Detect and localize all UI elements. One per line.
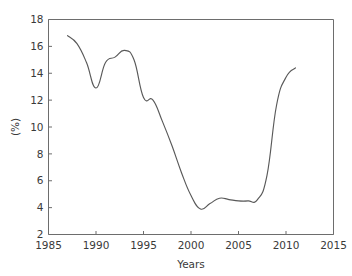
y-tick-label: 10 xyxy=(30,121,43,133)
x-axis-ticks xyxy=(96,231,334,235)
x-tick-label: 2015 xyxy=(320,239,347,251)
line-chart: 24681012141618 1985199019952000200520102… xyxy=(0,0,352,276)
y-axis-tick-labels: 24681012141618 xyxy=(30,13,44,240)
plot-axes xyxy=(49,20,334,235)
x-tick-label: 2000 xyxy=(178,239,205,251)
chart-figure: 24681012141618 1985199019952000200520102… xyxy=(0,0,352,276)
x-tick-label: 2010 xyxy=(273,239,300,251)
y-tick-label: 12 xyxy=(30,94,43,106)
x-tick-label: 1990 xyxy=(83,239,110,251)
x-tick-label: 2005 xyxy=(225,239,252,251)
x-axis-tick-labels: 1985199019952000200520102015 xyxy=(35,239,347,251)
y-tick-label: 16 xyxy=(30,40,44,52)
y-tick-label: 6 xyxy=(37,174,44,186)
axis-frame xyxy=(49,20,334,235)
x-axis-title: Years xyxy=(176,258,205,270)
x-tick-label: 1985 xyxy=(35,239,62,251)
y-tick-label: 14 xyxy=(30,67,44,79)
y-tick-label: 4 xyxy=(37,201,44,213)
y-axis-title: (%) xyxy=(9,118,21,136)
y-axis-ticks xyxy=(49,20,53,235)
data-series-line xyxy=(68,36,296,210)
x-tick-label: 1995 xyxy=(130,239,157,251)
y-tick-label: 8 xyxy=(37,148,44,160)
y-tick-label: 18 xyxy=(30,13,43,25)
